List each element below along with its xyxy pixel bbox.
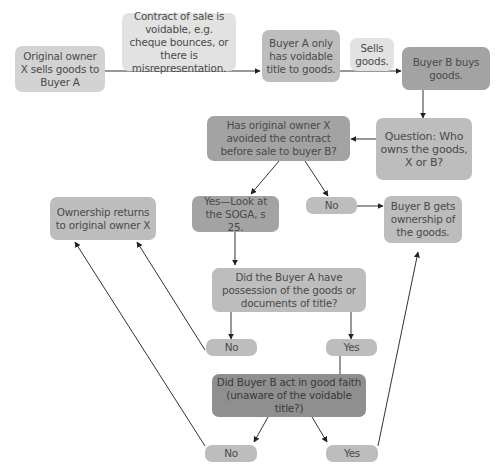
node-buyer-b-gets-ownership: Buyer B gets ownership of the goods. — [384, 196, 462, 243]
node-sells-goods: Sells goods. — [350, 38, 394, 71]
node-buyer-a-voidable-title: Buyer A only has voidable title to goods… — [262, 30, 340, 82]
node-possession-question: Did the Buyer A have possession of the g… — [212, 268, 366, 312]
node-no-possession: No — [206, 339, 257, 356]
node-original-owner: Original owner X sells goods to Buyer A — [15, 46, 105, 92]
node-buyer-b-buys: Buyer B buys goods. — [402, 47, 490, 90]
node-ownership-returns: Ownership returns to original owner X — [50, 197, 156, 240]
node-contract-voidable: Contract of sale is voidable, e.g. chequ… — [122, 13, 236, 71]
node-question: Question: Who owns the goods, X or B? — [376, 118, 472, 180]
node-no-avoided: No — [306, 197, 357, 214]
node-yes-soga: Yes—Look at the SOGA, s 25. — [192, 196, 279, 232]
node-yes-good-faith: Yes — [326, 445, 378, 462]
node-no-good-faith: No — [205, 445, 257, 462]
node-good-faith-question: Did Buyer B act in good faith (unaware o… — [212, 374, 366, 417]
node-avoided-contract: Has original owner X avoided the contrac… — [207, 116, 350, 161]
node-yes-possession: Yes — [326, 339, 377, 356]
flowchart: Original owner X sells goods to Buyer A … — [0, 0, 496, 476]
